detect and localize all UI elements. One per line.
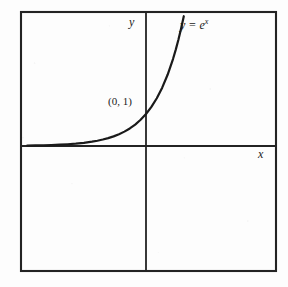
exponential-curve: [27, 16, 184, 145]
y-axis-label: y: [129, 16, 134, 28]
x-axis-label: x: [258, 148, 263, 160]
plot-canvas: [0, 0, 288, 287]
y-intercept-label: (0, 1): [108, 96, 132, 107]
curve-equation-exponent: x: [205, 17, 209, 26]
plot-frame: [21, 12, 276, 271]
curve-equation-label: y = ex: [180, 19, 208, 31]
exponential-function-figure: y x (0, 1) y = ex: [0, 0, 288, 287]
curve-equation-base: y = e: [180, 18, 205, 32]
